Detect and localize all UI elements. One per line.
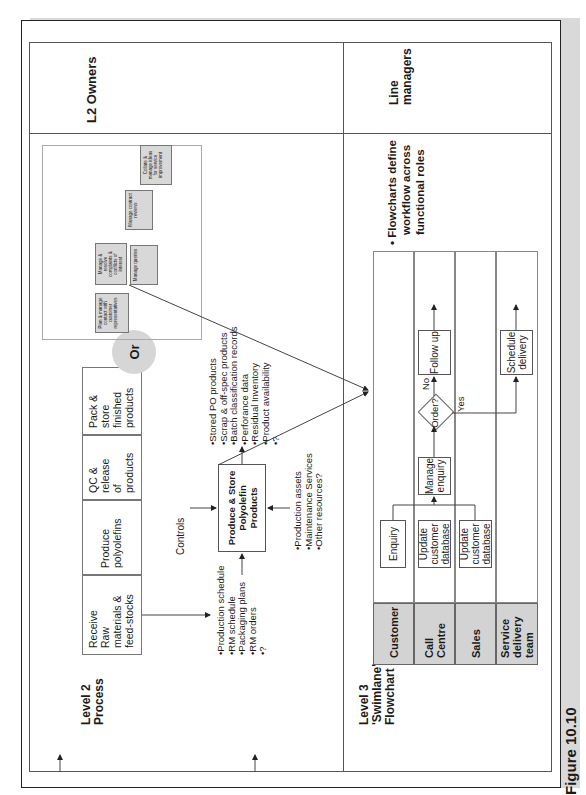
rotated-page: Figure 10.10 Level 2 Process Level 3 'Sw… xyxy=(0,0,586,795)
connectors xyxy=(0,0,586,795)
